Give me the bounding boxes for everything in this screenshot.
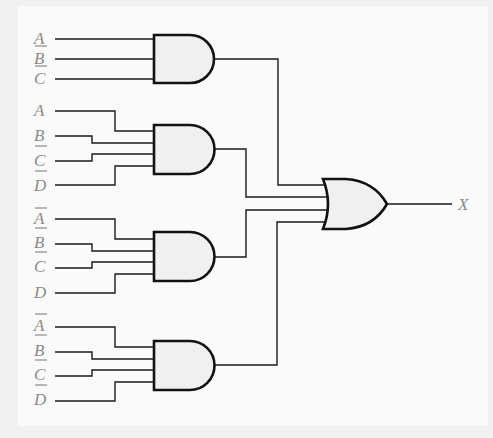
- wire-g2-a: [55, 111, 154, 131]
- and-gate-1-inputs: A B C: [33, 29, 154, 88]
- logic-diagram: A B C A B C D A B C D: [0, 0, 493, 438]
- input-label-g1-b: B: [34, 49, 45, 68]
- input-label-g3-b: B: [34, 233, 45, 252]
- wire-and3-to-or: [214, 210, 328, 257]
- input-label-g1-a: A: [33, 29, 45, 48]
- output-label-x: X: [457, 195, 469, 214]
- input-label-g4-d: D: [33, 390, 47, 409]
- and-gate-4: [154, 341, 215, 390]
- wire-g4-c: [55, 370, 154, 376]
- input-label-g2-a: A: [33, 101, 45, 120]
- wire-g3-a: [55, 219, 154, 239]
- and-gate-2-inputs: A B C D: [33, 101, 154, 195]
- and-gate-3-inputs: A B C D: [33, 208, 154, 302]
- and-gate-1: [154, 35, 214, 83]
- or-gate: [323, 179, 387, 229]
- wire-and1-to-or: [214, 59, 326, 185]
- input-label-g2-b: B: [34, 126, 45, 145]
- input-label-g3-c: C: [34, 257, 46, 276]
- wire-g4-a: [55, 327, 154, 347]
- and-gate-3: [154, 232, 214, 281]
- wire-g3-b: [55, 244, 154, 251]
- wire-g4-d: [55, 382, 154, 401]
- input-label-g3-a: A: [33, 209, 45, 228]
- input-label-g1-c: C: [34, 69, 46, 88]
- wire-and4-to-or: [214, 222, 326, 365]
- input-label-g4-b: B: [34, 341, 45, 360]
- input-label-g4-a: A: [33, 316, 45, 335]
- input-label-g2-d: D: [33, 176, 47, 195]
- wire-g2-c: [55, 154, 154, 161]
- input-label-g2-c: C: [34, 151, 46, 170]
- wire-and2-to-or: [214, 149, 328, 197]
- and-gate-2: [154, 125, 215, 174]
- circuit-svg: A B C A B C D A B C D: [0, 0, 493, 438]
- wire-g3-c: [55, 262, 154, 268]
- wire-g2-b: [55, 136, 154, 143]
- wire-g3-d: [55, 274, 154, 293]
- wire-g2-d: [55, 166, 154, 185]
- input-label-g4-c: C: [34, 365, 46, 384]
- wire-g4-b: [55, 352, 154, 359]
- and-gate-4-inputs: A B C D: [33, 314, 154, 409]
- input-label-g3-d: D: [33, 283, 47, 302]
